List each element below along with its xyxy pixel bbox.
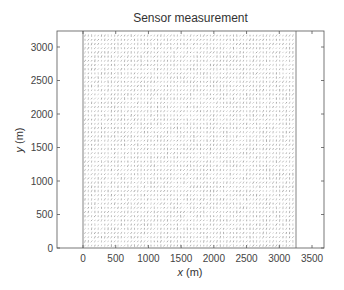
y-tick-label: 0: [47, 243, 53, 254]
x-tick-label: 1000: [137, 253, 160, 264]
axes-box: [57, 31, 324, 248]
x-tick-label: 3500: [301, 253, 324, 264]
y-tick-label: 2500: [31, 75, 54, 86]
y-tick-label: 2000: [31, 109, 54, 120]
y-axis-label: y (m): [13, 127, 25, 153]
chart-plot: 0500100015002000250030003500 05001000150…: [0, 0, 344, 290]
x-tick-label: 500: [107, 253, 124, 264]
x-tick-label: 2000: [203, 253, 226, 264]
x-tick-label: 3000: [268, 253, 291, 264]
y-tick-label: 500: [36, 209, 53, 220]
x-axis-label: x (m): [176, 266, 202, 278]
y-tick-label: 1000: [31, 176, 54, 187]
y-tick-label: 3000: [31, 42, 54, 53]
x-tick-label: 1500: [170, 253, 193, 264]
x-tick-label: 0: [80, 253, 86, 264]
x-tick-label: 2500: [235, 253, 258, 264]
y-tick-label: 1500: [31, 142, 54, 153]
